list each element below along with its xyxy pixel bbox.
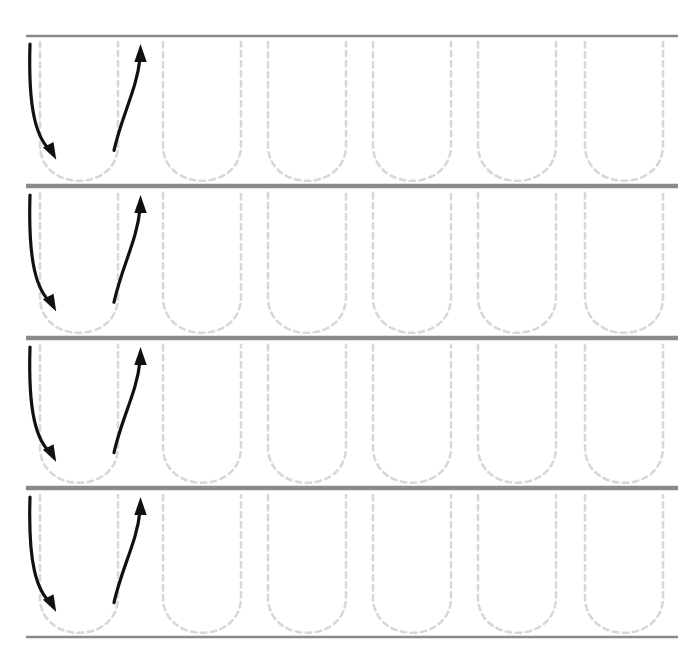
- worksheet-canvas: [0, 0, 696, 647]
- tracing-worksheet: Letter U Tracing Practice: [0, 0, 696, 647]
